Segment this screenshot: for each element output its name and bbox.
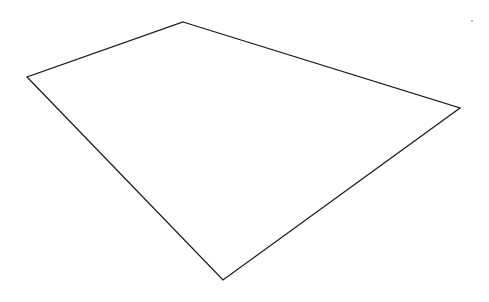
stray-dot — [471, 20, 473, 22]
canvas-background — [0, 0, 489, 302]
drawing-canvas — [0, 0, 489, 302]
